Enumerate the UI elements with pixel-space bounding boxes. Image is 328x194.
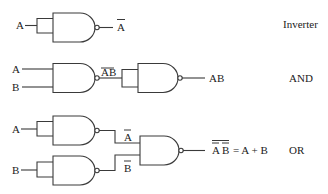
intermediate-not-ab-label: AB	[101, 66, 116, 78]
not-a-wire	[99, 131, 140, 144]
not-b-wire	[99, 155, 140, 171]
inverter-circuit: A A Inverter	[16, 13, 318, 42]
input-b-label: B	[12, 164, 19, 176]
nand-gate-2-icon	[138, 64, 178, 93]
output-not-a-label: A	[117, 21, 125, 33]
nand-gate-a-icon	[53, 116, 95, 145]
input-a-label: A	[12, 123, 20, 135]
tied-inputs-bracket-a	[37, 122, 53, 137]
nand-gate-b-icon	[53, 156, 95, 185]
intermediate-not-b-label: B	[124, 162, 131, 174]
nand-gate-1-icon	[53, 64, 95, 93]
output-a-term: A	[212, 144, 220, 156]
row-title-and: AND	[289, 72, 313, 84]
or-circuit: A A B B A B = A + B OR	[12, 116, 305, 185]
inversion-bubble-b-icon	[95, 168, 99, 172]
output-b-term: B	[222, 144, 229, 156]
tied-inputs-bracket	[122, 70, 138, 88]
inversion-bubble-2-icon	[178, 76, 182, 80]
nand-logic-diagram: A A Inverter A B AB AB AND A	[0, 0, 328, 194]
and-circuit: A B AB AB AND	[12, 63, 313, 93]
inversion-bubble-1-icon	[95, 76, 99, 80]
row-title-or: OR	[289, 144, 305, 156]
row-title-inverter: Inverter	[283, 18, 318, 30]
nand-gate-icon	[53, 13, 95, 42]
input-b-label: B	[12, 81, 19, 93]
input-a-label: A	[12, 63, 20, 75]
nand-gate-final-icon	[140, 136, 179, 165]
intermediate-not-a-label: A	[124, 131, 132, 143]
inversion-bubble-icon	[95, 25, 99, 29]
output-equals-a-plus-b: = A + B	[233, 144, 268, 156]
inversion-bubble-a-icon	[95, 128, 99, 132]
output-ab-label: AB	[209, 72, 224, 84]
tied-inputs-bracket-b	[37, 162, 53, 177]
inversion-bubble-final-icon	[179, 148, 183, 152]
input-a-label: A	[16, 19, 24, 31]
tied-inputs-bracket	[37, 19, 53, 34]
